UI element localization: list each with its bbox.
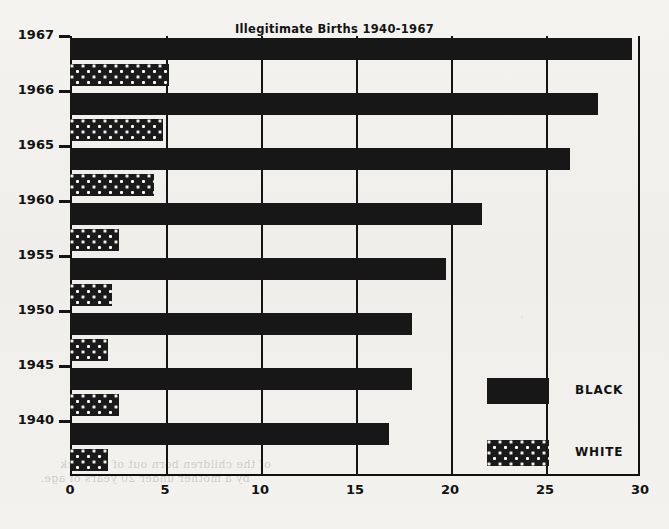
bar-black-1955	[70, 258, 446, 280]
bar-black-1965	[70, 148, 570, 170]
ytick-mark-1966	[59, 90, 70, 93]
xtick-label-15: 15	[346, 482, 364, 497]
bar-white-1945	[70, 394, 119, 416]
ytick-mark-1950	[59, 310, 70, 313]
bar-black-1960	[70, 203, 482, 225]
chart-legend: BLACK WHITE	[487, 378, 627, 470]
ytick-label-1960: 1960	[18, 192, 54, 207]
ytick-mark-1955	[59, 255, 70, 258]
dotted-white-swatch-icon	[487, 440, 549, 466]
ytick-label-1950: 1950	[18, 302, 54, 317]
chart-title: Illegitimate Births 1940-1967	[0, 22, 669, 36]
xtick-label-20: 20	[441, 482, 459, 497]
ytick-mark-1940	[59, 420, 70, 423]
ytick-label-1945: 1945	[18, 357, 54, 372]
legend-entry-white: WHITE	[487, 440, 627, 466]
bar-white-1940	[70, 449, 108, 471]
bar-white-1950	[70, 339, 108, 361]
legend-entry-black: BLACK	[487, 378, 627, 404]
xtick-label-30: 30	[631, 482, 649, 497]
xtick-label-5: 5	[160, 482, 169, 497]
bar-white-1960	[70, 229, 119, 251]
bar-chart: Illegitimate Births 1940-1967 0510152025…	[0, 0, 669, 529]
ytick-label-1965: 1965	[18, 137, 54, 152]
bar-black-1950	[70, 313, 412, 335]
bar-white-1967	[70, 64, 169, 86]
ytick-mark-1945	[59, 365, 70, 368]
ytick-label-1940: 1940	[18, 412, 54, 427]
ytick-label-1967: 1967	[18, 27, 54, 42]
ytick-mark-1965	[59, 145, 70, 148]
legend-label-black: BLACK	[575, 383, 623, 397]
xtick-label-0: 0	[65, 482, 74, 497]
bar-white-1966	[70, 119, 163, 141]
legend-label-white: WHITE	[575, 445, 623, 459]
ytick-mark-1967	[59, 35, 70, 38]
xtick-label-25: 25	[536, 482, 554, 497]
solid-black-swatch-icon	[487, 378, 549, 404]
bar-white-1965	[70, 174, 154, 196]
bar-black-1966	[70, 93, 598, 115]
ytick-label-1966: 1966	[18, 82, 54, 97]
xtick-label-10: 10	[251, 482, 269, 497]
ytick-mark-1960	[59, 200, 70, 203]
ytick-label-1955: 1955	[18, 247, 54, 262]
bar-white-1955	[70, 284, 112, 306]
bar-black-1967	[70, 38, 632, 60]
bar-black-1940	[70, 423, 389, 445]
bar-black-1945	[70, 368, 412, 390]
